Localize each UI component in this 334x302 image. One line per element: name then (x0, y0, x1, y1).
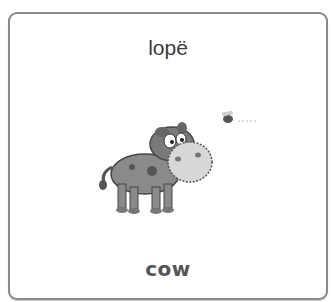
foreign-word: lopë (10, 36, 326, 60)
cow-illustration (90, 99, 270, 229)
english-word: cow (10, 257, 326, 281)
bee-icon (222, 111, 258, 123)
flashcard: lopë (8, 12, 328, 300)
